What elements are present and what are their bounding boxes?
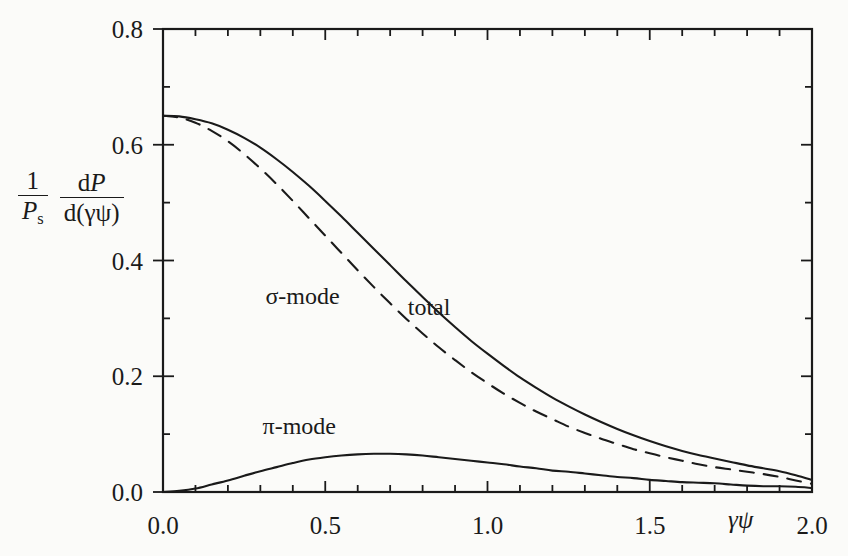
x-axis-label: γψ [728, 506, 754, 533]
axis-ticks [153, 29, 812, 492]
x-tick-label: 0.0 [147, 512, 178, 539]
y-tick-label: 0.4 [112, 248, 144, 275]
y-axis-label: 1 Ps dP d(γψ) [18, 168, 124, 228]
y-axis-label-derivative-denominator: d(γψ) [60, 197, 124, 226]
y-tick-label: 0.0 [112, 479, 143, 506]
x-tick-label: 1.0 [472, 512, 503, 539]
annotation-sigma-mode: σ-mode [265, 283, 339, 309]
y-tick-labels: 0.00.20.40.60.8 [112, 16, 144, 506]
y-axis-label-prefactor-denominator: Ps [18, 195, 48, 228]
x-tick-label: 0.5 [310, 512, 341, 539]
annotation-pi-mode: π-mode [263, 413, 336, 439]
x-tick-label: 1.5 [634, 512, 665, 539]
data-curves [163, 116, 812, 492]
x-tick-labels: 0.00.51.01.52.0 [147, 512, 827, 539]
y-axis-label-ps-subscript: s [37, 210, 43, 229]
y-tick-label: 0.8 [112, 16, 143, 43]
y-axis-label-prefactor-numerator: 1 [23, 168, 44, 195]
axes-frame [163, 29, 812, 492]
plot-area: 0.00.51.01.52.0 0.00.20.40.60.8 σ-modeto… [0, 0, 848, 556]
figure-root: 0.00.51.01.52.0 0.00.20.40.60.8 σ-modeto… [0, 0, 848, 556]
y-axis-label-derivative-numerator: dP [74, 170, 110, 197]
y-axis-label-derivative: dP d(γψ) [60, 170, 124, 227]
y-axis-label-prefactor: 1 Ps [18, 168, 48, 228]
x-tick-label: 2.0 [796, 512, 827, 539]
x-axis-name: γψ [728, 506, 754, 533]
curve-total [163, 116, 812, 480]
y-tick-label: 0.6 [112, 132, 143, 159]
y-tick-label: 0.2 [112, 363, 143, 390]
annotation-total: total [408, 294, 451, 320]
y-axis-label-ps-symbol: P [22, 197, 37, 224]
curve-sigma-mode [163, 116, 812, 484]
curve-annotations: σ-modetotalπ-mode [263, 283, 451, 439]
